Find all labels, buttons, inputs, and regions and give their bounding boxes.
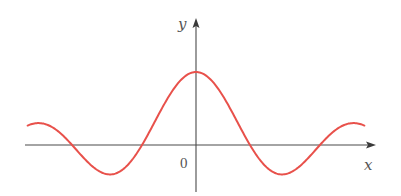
origin-label: 0 xyxy=(180,155,188,171)
y-axis-label: y xyxy=(177,15,187,33)
x-axis-label: x xyxy=(364,156,373,174)
axes xyxy=(25,18,376,192)
chart: y x 0 xyxy=(0,0,401,196)
